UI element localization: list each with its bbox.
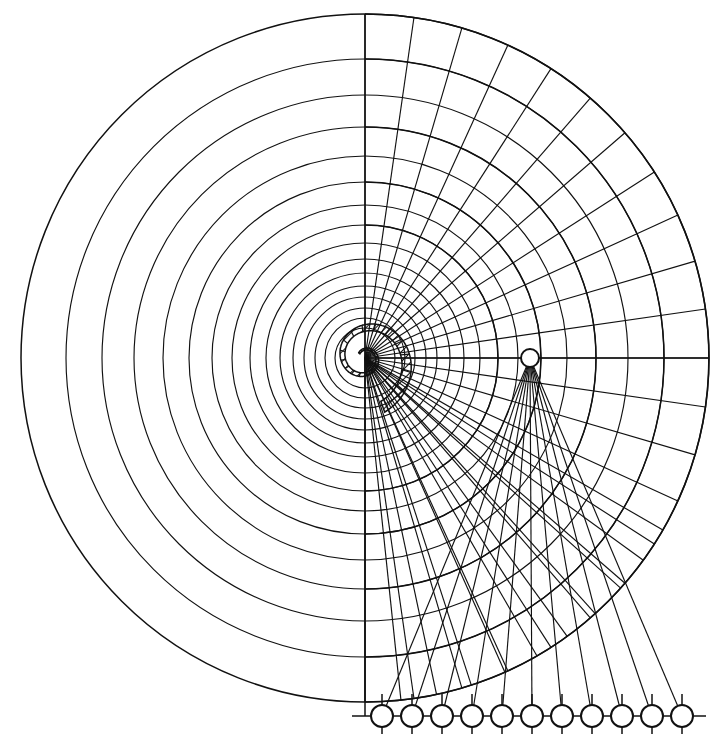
spiral-band-rib xyxy=(376,361,379,362)
bottom-circle-marker[interactable] xyxy=(431,705,453,727)
secondary-focus-marker[interactable] xyxy=(521,349,539,367)
radial-line xyxy=(365,28,462,358)
figure-root: Geometric spiral construction diagram Lo… xyxy=(0,0,719,748)
spiral-band-rib xyxy=(361,350,362,352)
projection-ray xyxy=(530,358,532,716)
projection-ray xyxy=(530,358,622,716)
bottom-circle-marker[interactable] xyxy=(401,705,423,727)
pole-ray xyxy=(365,358,437,694)
bottom-circle-marker[interactable] xyxy=(521,705,543,727)
pole-ray xyxy=(365,358,643,560)
bottom-circle-marker[interactable] xyxy=(371,705,393,727)
spiral-band-rib xyxy=(359,353,360,354)
radial-line xyxy=(365,18,414,358)
spiral-band-rib xyxy=(368,348,369,350)
projection-ray xyxy=(530,358,592,716)
bottom-marker-layer xyxy=(371,694,693,734)
bottom-circle-marker[interactable] xyxy=(611,705,633,727)
pole-ray xyxy=(365,358,505,672)
bottom-circle-marker[interactable] xyxy=(491,705,513,727)
bottom-circle-marker[interactable] xyxy=(551,705,573,727)
spiral-band-rib xyxy=(401,354,410,355)
bottom-circle-marker[interactable] xyxy=(581,705,603,727)
secondary-focus-layer xyxy=(521,349,539,367)
spiral-construction-drawing xyxy=(0,0,719,748)
radial-line xyxy=(365,261,695,358)
bottom-circle-marker[interactable] xyxy=(461,705,483,727)
projection-ray xyxy=(530,358,652,716)
bottom-circle-marker[interactable] xyxy=(641,705,663,727)
spiral-band-rib xyxy=(362,325,363,331)
bottom-circle-marker[interactable] xyxy=(671,705,693,727)
